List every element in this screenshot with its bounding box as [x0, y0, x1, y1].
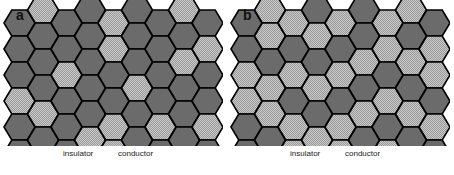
conductor-cell — [419, 62, 450, 88]
conductor-cell — [419, 114, 450, 140]
panel-b-insulator-label: insulator — [290, 150, 320, 158]
conductor-cell — [192, 114, 223, 140]
insulator-cell — [192, 88, 223, 114]
conductor-cell — [192, 36, 223, 62]
panel-a-label: a — [16, 8, 24, 22]
panel-a: a insulator conductor — [0, 0, 227, 175]
panel-a-conductor-label: conductor — [118, 150, 153, 158]
panel-b-lattice — [227, 0, 454, 175]
lattice-svg-b — [227, 0, 454, 175]
insulator-cell — [192, 62, 223, 88]
panel-b-label: b — [243, 8, 252, 22]
insulator-cell — [192, 140, 223, 166]
insulator-cell — [419, 140, 450, 166]
panel-a-insulator-label: insulator — [63, 150, 93, 158]
insulator-cell — [419, 88, 450, 114]
conductor-cell — [419, 36, 450, 62]
insulator-cell — [192, 10, 223, 36]
hexagonal-lattice-figure: a insulator conductor b insulator conduc… — [0, 0, 454, 175]
lattice-svg-a — [0, 0, 227, 175]
panel-a-lattice — [0, 0, 227, 175]
insulator-cell — [419, 10, 450, 36]
panel-b: b insulator conductor — [227, 0, 454, 175]
panel-b-conductor-label: conductor — [345, 150, 380, 158]
